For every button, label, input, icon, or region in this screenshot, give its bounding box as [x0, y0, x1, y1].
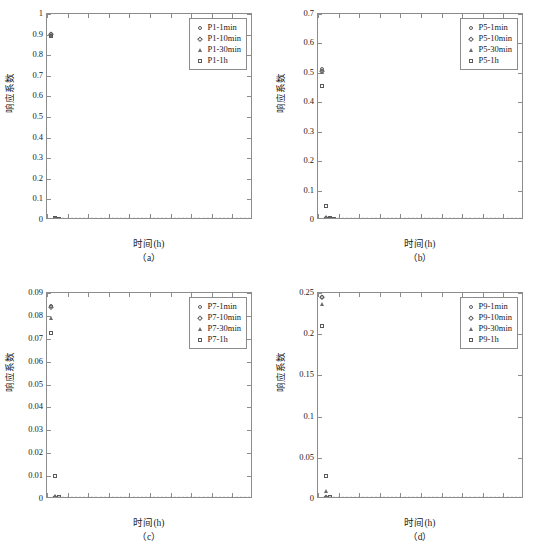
legend-item[interactable]: P7-1min [193, 301, 241, 312]
y-tick-label: 0.7 [274, 8, 314, 18]
legend-label: P5-10min [477, 33, 512, 44]
x-tick [47, 214, 48, 218]
legend-item[interactable]: P9-1min [464, 301, 512, 312]
y-tick-label: 0.02 [3, 447, 43, 457]
triangle-marker-icon [198, 327, 202, 331]
y-tick-right [518, 132, 522, 133]
diamond-marker-icon [468, 315, 473, 320]
x-tick-top [109, 293, 110, 297]
legend-label: P5-1min [477, 22, 507, 33]
legend-label: P9-10min [477, 312, 512, 323]
x-tick-top [88, 293, 89, 297]
legend-item[interactable]: P7-1h [193, 334, 241, 345]
y-tick-label: 0.1 [3, 193, 43, 203]
legend-label: P7-1h [206, 334, 227, 345]
legend-item[interactable]: P9-10min [464, 312, 512, 323]
legend-item[interactable]: P5-1min [464, 22, 512, 33]
y-tick-right [247, 407, 251, 408]
y-tick-right [247, 453, 251, 454]
chart-panel-4: P9-1minP9-10minP9-30minP9-1h00.050.10.15… [271, 279, 542, 558]
chart-panel-2: P5-1minP5-10minP5-30minP5-1h00.10.20.30.… [271, 0, 542, 279]
y-tick [318, 334, 322, 335]
x-tick-top [400, 14, 401, 18]
legend: P9-1minP9-10minP9-30minP9-1h [460, 297, 518, 349]
legend-item[interactable]: P5-30min [464, 44, 512, 55]
x-tick-top [421, 293, 422, 297]
legend-triangle-icon [464, 44, 477, 55]
legend-label: P9-30min [477, 323, 512, 334]
legend-item[interactable]: P7-10min [193, 312, 241, 323]
y-tick-right [247, 430, 251, 431]
circle-marker-icon [198, 305, 202, 309]
legend-label: P1-30min [206, 44, 241, 55]
legend-item[interactable]: P1-1h [193, 55, 241, 66]
y-tick [318, 43, 322, 44]
y-tick [47, 385, 51, 386]
legend-item[interactable]: P1-1min [193, 22, 241, 33]
y-tick [47, 14, 51, 15]
legend-item[interactable]: P9-30min [464, 323, 512, 334]
y-tick-right [247, 76, 251, 77]
legend-item[interactable]: P5-10min [464, 33, 512, 44]
y-tick-label: 0.4 [3, 132, 43, 142]
y-tick [47, 476, 51, 477]
y-tick-label: 0.05 [274, 452, 314, 462]
plot-area: P9-1minP9-10minP9-30minP9-1h [317, 292, 523, 498]
x-tick-top [400, 293, 401, 297]
y-tick-right [518, 102, 522, 103]
x-tick-top [339, 293, 340, 297]
y-tick [47, 117, 51, 118]
y-tick [47, 199, 51, 200]
x-tick-top [171, 14, 172, 18]
data-point [53, 474, 57, 478]
x-tick-top [150, 293, 151, 297]
y-tick-right [247, 385, 251, 386]
legend-square-icon [193, 55, 206, 66]
x-tick-top [150, 14, 151, 18]
y-tick [318, 161, 322, 162]
y-tick [47, 138, 51, 139]
data-point [49, 34, 53, 38]
diamond-marker-icon [197, 315, 202, 320]
y-tick-right [247, 179, 251, 180]
data-point [320, 295, 325, 300]
y-tick-right [247, 55, 251, 56]
legend-item[interactable]: P5-1h [464, 55, 512, 66]
legend-item[interactable]: P1-10min [193, 33, 241, 44]
legend-circle-icon [193, 22, 206, 33]
legend-item[interactable]: P7-30min [193, 323, 241, 334]
legend-label: P5-1h [477, 55, 498, 66]
x-tick-top [68, 14, 69, 18]
y-tick-right [247, 362, 251, 363]
data-point [324, 474, 328, 478]
y-tick-right [247, 138, 251, 139]
y-tick [47, 179, 51, 180]
x-tick-top [339, 14, 340, 18]
circle-marker-icon [198, 26, 202, 30]
square-marker-icon [469, 59, 473, 63]
y-tick-right [518, 191, 522, 192]
y-tick [47, 158, 51, 159]
chart-panel-3: P7-1minP7-10minP7-30minP7-1h00.010.020.0… [0, 279, 271, 558]
legend-label: P9-1min [477, 301, 507, 312]
legend-square-icon [193, 334, 206, 345]
y-tick-label: 0 [3, 214, 43, 224]
y-tick-right [247, 35, 251, 36]
y-tick-label: 0.03 [3, 424, 43, 434]
data-point [320, 84, 324, 88]
y-tick [47, 55, 51, 56]
x-tick-top [359, 14, 360, 18]
legend-square-icon [464, 55, 477, 66]
legend-label: P1-1min [206, 22, 236, 33]
y-tick-right [247, 117, 251, 118]
y-tick-label: 0.9 [3, 29, 43, 39]
y-tick [47, 293, 51, 294]
square-marker-icon [198, 59, 202, 63]
legend-triangle-icon [193, 323, 206, 334]
legend-item[interactable]: P1-30min [193, 44, 241, 55]
y-tick [318, 102, 322, 103]
data-point [320, 302, 324, 306]
y-tick [318, 132, 322, 133]
legend-item[interactable]: P9-1h [464, 334, 512, 345]
y-tick-right [247, 476, 251, 477]
